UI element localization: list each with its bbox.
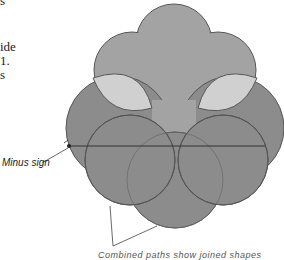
bottom-circles bbox=[85, 115, 268, 228]
bottom-callout-label: Combined paths show joined shapes bbox=[98, 250, 262, 260]
minus-sign-marker bbox=[67, 144, 71, 148]
minus-sign-label: Minus sign bbox=[2, 157, 50, 168]
